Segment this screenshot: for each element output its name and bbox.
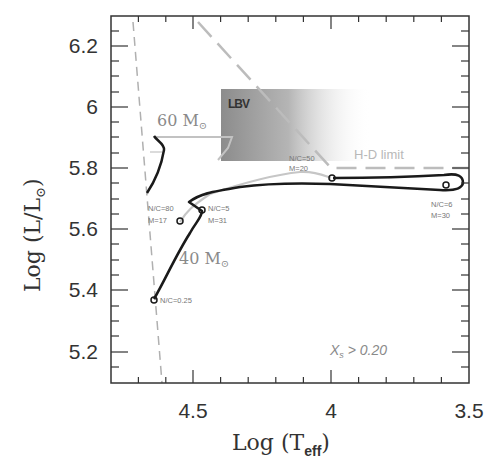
- marker-nc6: [443, 182, 449, 188]
- annot-m30: M=30: [431, 211, 450, 220]
- y-tick-label: 5.6: [69, 217, 98, 240]
- x-tick-label: 3.5: [454, 399, 483, 422]
- track-60-grey: [156, 137, 232, 160]
- y-tick-label: 5.4: [69, 278, 99, 301]
- annot-nc5: N/C=5: [208, 204, 229, 213]
- y-tick-label: 6.2: [69, 34, 98, 57]
- annot-nc6: N/C=6: [431, 200, 452, 209]
- y-axis-title: Log (L/L⊙): [20, 178, 48, 292]
- annot-m20: M=20: [289, 164, 308, 173]
- y-tick-label: 5.8: [69, 156, 98, 179]
- annot-nc025: N/C=0.25: [160, 296, 192, 305]
- x-tick-label: 4: [325, 399, 337, 422]
- annot-nc50: N/C=50: [289, 154, 315, 163]
- track-40-grey: [180, 172, 331, 222]
- zams-dashed-line: [133, 22, 162, 383]
- y-tick-label: 6: [86, 95, 98, 118]
- x-axis-title: Log (Teff): [232, 430, 330, 459]
- hr-diagram: LBV H-D limit 60 M⊙ 40 M⊙ N/C=0.25 N/C=8…: [0, 0, 496, 473]
- plot-frame: [111, 16, 469, 383]
- label-60msun: 60 M⊙: [157, 111, 207, 131]
- x-tick-label: 4.5: [178, 399, 207, 422]
- hd-limit-label: H-D limit: [354, 147, 404, 162]
- annot-m31: M=31: [208, 216, 227, 225]
- annot-m17: M=17: [148, 216, 167, 225]
- y-ticks: [111, 31, 469, 367]
- xs-condition-label: Xs > 0.20: [329, 342, 387, 360]
- track-40-black: [154, 174, 463, 299]
- lbv-label: LBV: [228, 97, 250, 111]
- label-40msun: 40 M⊙: [179, 249, 229, 269]
- annot-nc80: N/C=80: [148, 204, 174, 213]
- x-ticks: [138, 16, 441, 383]
- track-60-black: [147, 136, 164, 193]
- y-tick-label: 5.2: [69, 340, 98, 363]
